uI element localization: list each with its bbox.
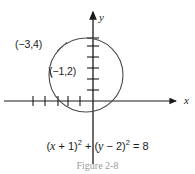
circle-equation: (x + 1)2 + (y − 2)2 = 8 [0,140,195,152]
y-axis-label: y [99,12,104,23]
equation-plus-one: + 1) [55,140,77,152]
x-axis-label: x [184,95,189,106]
outer-point-label: (−3,4) [15,39,42,50]
figure-caption: Figure 2-8 [0,161,195,171]
center-point-label: (−1,2) [49,66,76,77]
equation-minus-two: − 2) [103,140,125,152]
equation-plus-between: + [82,140,95,152]
figure-container: y x (−3,4) (−1,2) (x + 1)2 + (y − 2)2 = … [0,0,195,174]
outer-point-leader-line [57,42,67,51]
equation-equals-value: = 8 [130,140,149,152]
